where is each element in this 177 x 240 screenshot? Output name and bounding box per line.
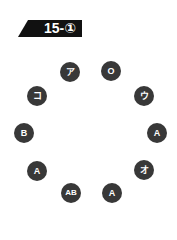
seat-node-ko-katakana: コ	[27, 86, 47, 106]
seat-node-a-right: A	[147, 123, 167, 143]
seat-node-ab: AB	[61, 183, 81, 203]
seat-node-a-katakana: ア	[60, 62, 80, 82]
seat-node-b: B	[14, 123, 34, 143]
seat-node-a-bottom: A	[102, 183, 122, 203]
problem-number-banner: 15-①	[18, 20, 82, 37]
seat-node-a-left: A	[27, 161, 47, 181]
seat-node-o-katakana: オ	[134, 160, 154, 180]
seat-node-u-katakana: ウ	[134, 86, 154, 106]
seat-node-o: O	[101, 61, 121, 81]
problem-number-label: 15-①	[38, 20, 82, 37]
